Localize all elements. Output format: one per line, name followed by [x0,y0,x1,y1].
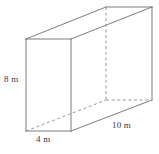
geometry-figure: 8 m 4 m 10 m [0,0,159,154]
hidden-edge-bottom-left-depth [26,100,106,131]
height-dimension-label: 8 m [4,74,18,84]
edge-top-left-depth [26,7,106,39]
rectangular-prism-drawing [0,0,159,154]
edge-top-right-depth [71,7,152,39]
width-dimension-label: 4 m [36,134,50,144]
prism-solid-edges [26,7,152,131]
depth-dimension-label: 10 m [112,120,131,130]
prism-hidden-edges [26,7,152,131]
